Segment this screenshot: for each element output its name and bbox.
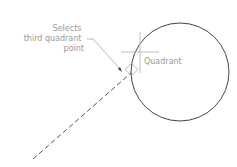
callout-line-3: point — [64, 44, 84, 53]
callout-text: Selects third quadrant point — [24, 24, 84, 53]
callout-line-2: third quadrant — [24, 34, 82, 43]
cad-diagram: Selects third quadrant point Quadrant — [0, 0, 237, 167]
crosshair-cursor — [121, 32, 159, 73]
callout-line-1: Selects — [53, 24, 82, 33]
circle — [131, 23, 229, 121]
quadrant-label: Quadrant — [144, 57, 182, 66]
leader-line — [87, 39, 121, 70]
dashed-line — [33, 73, 131, 159]
